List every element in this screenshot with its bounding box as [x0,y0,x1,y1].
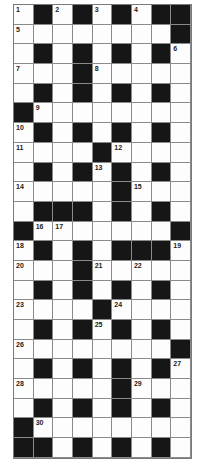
grid-cell[interactable]: 27 [171,359,191,379]
grid-cell[interactable]: 1 [14,5,34,25]
grid-cell[interactable] [171,163,191,183]
grid-cell[interactable] [14,359,34,379]
grid-cell[interactable] [112,103,132,123]
grid-cell[interactable] [73,300,93,320]
grid-cell[interactable] [53,359,73,379]
grid-cell[interactable]: 12 [112,143,132,163]
grid-cell[interactable]: 26 [14,340,34,360]
grid-cell[interactable] [112,222,132,242]
grid-cell[interactable] [171,123,191,143]
grid-cell[interactable]: 15 [132,182,152,202]
grid-cell[interactable]: 13 [93,163,113,183]
grid-cell[interactable] [93,418,113,438]
grid-cell[interactable] [132,340,152,360]
grid-cell[interactable] [93,359,113,379]
grid-cell[interactable]: 23 [14,300,34,320]
grid-cell[interactable]: 17 [53,222,73,242]
grid-cell[interactable]: 22 [132,261,152,281]
grid-cell[interactable] [152,379,172,399]
grid-cell[interactable] [93,222,113,242]
grid-cell[interactable] [53,64,73,84]
grid-cell[interactable] [132,84,152,104]
grid-cell[interactable] [171,320,191,340]
grid-cell[interactable] [93,241,113,261]
grid-cell[interactable] [53,25,73,45]
grid-cell[interactable]: 29 [132,379,152,399]
grid-cell[interactable] [34,64,54,84]
grid-cell[interactable] [14,44,34,64]
grid-cell[interactable] [73,182,93,202]
grid-cell[interactable] [112,418,132,438]
grid-cell[interactable] [93,340,113,360]
grid-cell[interactable] [132,222,152,242]
grid-cell[interactable] [171,438,191,458]
grid-cell[interactable]: 6 [171,44,191,64]
grid-cell[interactable] [53,379,73,399]
grid-cell[interactable] [132,359,152,379]
grid-cell[interactable] [53,281,73,301]
grid-cell[interactable] [132,202,152,222]
grid-cell[interactable]: 9 [34,103,54,123]
grid-cell[interactable] [53,143,73,163]
grid-cell[interactable] [112,340,132,360]
grid-cell[interactable] [132,143,152,163]
grid-cell[interactable]: 7 [14,64,34,84]
grid-cell[interactable]: 8 [93,64,113,84]
grid-cell[interactable] [132,64,152,84]
grid-cell[interactable]: 5 [14,25,34,45]
grid-cell[interactable]: 18 [14,241,34,261]
grid-cell[interactable] [93,202,113,222]
grid-cell[interactable] [93,84,113,104]
grid-cell[interactable] [34,25,54,45]
grid-cell[interactable] [112,261,132,281]
grid-cell[interactable] [93,44,113,64]
grid-cell[interactable] [171,182,191,202]
grid-cell[interactable]: 11 [14,143,34,163]
grid-cell[interactable]: 20 [14,261,34,281]
grid-cell[interactable] [152,418,172,438]
grid-cell[interactable] [152,261,172,281]
grid-cell[interactable]: 16 [34,222,54,242]
grid-cell[interactable] [53,241,73,261]
grid-cell[interactable] [152,64,172,84]
grid-cell[interactable] [73,143,93,163]
grid-cell[interactable] [93,399,113,419]
grid-cell[interactable] [171,202,191,222]
grid-cell[interactable] [93,182,113,202]
grid-cell[interactable] [152,340,172,360]
grid-cell[interactable] [14,163,34,183]
grid-cell[interactable] [53,103,73,123]
grid-cell[interactable] [171,399,191,419]
grid-cell[interactable] [171,300,191,320]
grid-cell[interactable] [53,44,73,64]
grid-cell[interactable] [14,202,34,222]
grid-cell[interactable] [171,281,191,301]
grid-cell[interactable] [171,379,191,399]
grid-cell[interactable] [132,320,152,340]
grid-cell[interactable] [93,25,113,45]
grid-cell[interactable] [93,379,113,399]
grid-cell[interactable]: 14 [14,182,34,202]
grid-cell[interactable] [152,300,172,320]
grid-cell[interactable] [34,261,54,281]
grid-cell[interactable] [53,123,73,143]
grid-cell[interactable] [53,182,73,202]
grid-cell[interactable] [53,261,73,281]
grid-cell[interactable] [171,261,191,281]
grid-cell[interactable] [132,163,152,183]
grid-cell[interactable] [53,418,73,438]
grid-cell[interactable] [73,418,93,438]
grid-cell[interactable] [53,300,73,320]
grid-cell[interactable]: 3 [93,5,113,25]
grid-cell[interactable] [53,320,73,340]
grid-cell[interactable]: 25 [93,320,113,340]
grid-cell[interactable] [53,340,73,360]
grid-cell[interactable] [171,143,191,163]
grid-cell[interactable] [34,182,54,202]
grid-cell[interactable] [73,25,93,45]
grid-cell[interactable] [171,64,191,84]
grid-cell[interactable] [152,103,172,123]
grid-cell[interactable] [132,123,152,143]
grid-cell[interactable] [93,438,113,458]
grid-cell[interactable]: 4 [132,5,152,25]
